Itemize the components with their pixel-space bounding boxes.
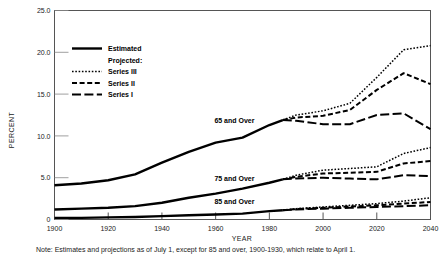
y-tick-label: 15.0 bbox=[37, 91, 51, 98]
y-tick-label: 10.0 bbox=[37, 133, 51, 140]
x-tick-label: 1900 bbox=[47, 225, 63, 232]
population-age-projection-chart: 05.010.015.020.025.0 1900192019401960198… bbox=[0, 0, 443, 257]
line-estimated-75-and-over bbox=[55, 179, 283, 209]
y-tick-label: 20.0 bbox=[37, 49, 51, 56]
x-tick-label: 2020 bbox=[369, 225, 385, 232]
line-series-i-75-and-over bbox=[283, 175, 431, 179]
legend-label-estimated: Estimated bbox=[108, 45, 141, 52]
x-tick-label: 1980 bbox=[262, 225, 278, 232]
chart-figure: 05.010.015.020.025.0 1900192019401960198… bbox=[0, 0, 443, 257]
y-tick-label: 5.0 bbox=[41, 174, 51, 181]
x-axis-title: YEAR bbox=[232, 235, 253, 242]
annotation-75-and-over: 75 and Over bbox=[214, 175, 254, 182]
legend-label-series-iii: Series III bbox=[108, 68, 137, 75]
y-tick-label: 25.0 bbox=[37, 7, 51, 14]
legend-label-series-i: Series I bbox=[108, 91, 133, 98]
legend-label-series-ii: Series II bbox=[108, 80, 135, 87]
annotation-65-and-over: 65 and Over bbox=[214, 117, 254, 124]
y-axis-title: PERCENT bbox=[8, 112, 15, 149]
x-axis-ticks: 19001920194019601980200020202040 bbox=[47, 213, 439, 232]
line-series-iii-65-and-over bbox=[283, 46, 431, 120]
x-tick-label: 2040 bbox=[423, 225, 439, 232]
chart-legend: EstimatedProjected:Series IIISeries IISe… bbox=[72, 45, 142, 98]
line-series-i-85-and-over bbox=[283, 205, 431, 210]
line-series-i-65-and-over bbox=[283, 113, 431, 129]
annotation-85-and-over: 85 and Over bbox=[214, 198, 254, 205]
series-annotations: 65 and Over75 and Over85 and Over bbox=[214, 117, 254, 205]
x-tick-label: 1960 bbox=[208, 225, 224, 232]
y-tick-label: 0 bbox=[47, 216, 51, 223]
y-axis-ticks: 05.010.015.020.025.0 bbox=[37, 7, 69, 223]
x-tick-label: 1940 bbox=[154, 225, 170, 232]
line-series-ii-75-and-over bbox=[283, 161, 431, 179]
x-tick-label: 2000 bbox=[315, 225, 331, 232]
line-estimated-85-and-over bbox=[55, 210, 283, 218]
x-tick-label: 1920 bbox=[100, 225, 116, 232]
chart-note: Note: Estimates and projections as of Ju… bbox=[36, 246, 355, 254]
legend-label-projected-: Projected: bbox=[108, 57, 142, 65]
